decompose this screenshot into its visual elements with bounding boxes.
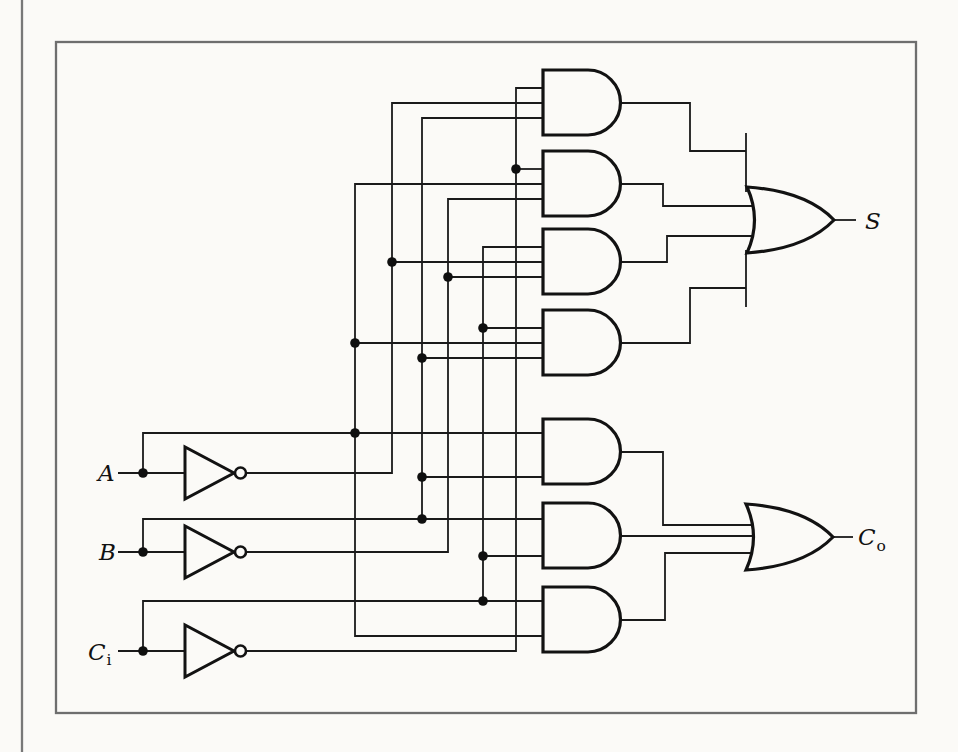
wire-ci-bus-to-and3 <box>483 247 543 601</box>
wire-a-bus-up-to-and2 <box>355 184 543 433</box>
junction-dot <box>478 323 488 333</box>
and-gate-4 <box>543 310 621 375</box>
label-carry-out-subscript: o <box>877 537 886 555</box>
label-carry-in-subscript: i <box>107 651 112 669</box>
and-gate-6 <box>543 503 621 568</box>
inverter-triangle <box>185 526 234 578</box>
inverter-bubble <box>235 468 246 479</box>
inverter-triangle <box>185 447 234 499</box>
wire-and3-to-orsum <box>620 236 754 262</box>
and-gate-5 <box>543 419 621 484</box>
label-carry-in-base: C <box>88 639 106 665</box>
wire-and5-to-orcarry <box>620 452 753 525</box>
wire-and2-to-orsum <box>620 184 754 206</box>
junction-dots <box>138 164 521 656</box>
label-carry-out-base: C <box>858 524 876 550</box>
junction-dot <box>511 164 521 174</box>
label-output-carry-out: Co <box>858 524 886 555</box>
junction-dot <box>417 353 427 363</box>
junction-dot <box>138 547 148 557</box>
junction-dot <box>350 428 360 438</box>
wire-bbar-bus-to-and2 <box>246 199 543 552</box>
inverter-b <box>185 526 246 578</box>
and-gate-7 <box>543 587 621 652</box>
junction-dot <box>387 257 397 267</box>
inverter-bubble <box>235 646 246 657</box>
junction-dot <box>478 551 488 561</box>
inverter-bubble <box>235 547 246 558</box>
junction-dot <box>138 468 148 478</box>
label-input-b: B <box>98 539 116 565</box>
and-gate-2 <box>543 151 621 216</box>
wire-abar-bus-to-and1 <box>246 103 543 473</box>
junction-dot <box>478 596 488 606</box>
junction-dot <box>417 472 427 482</box>
inverter-a <box>185 447 246 499</box>
wire-and4-to-orsum <box>620 288 746 343</box>
junction-dot <box>417 514 427 524</box>
wires <box>118 88 856 651</box>
wire-a-bus-down-to-and7 <box>355 433 543 636</box>
junction-dot <box>138 646 148 656</box>
label-input-a: A <box>96 460 115 486</box>
scanned-page: A B Ci S Co <box>0 0 958 752</box>
or-gate-carry <box>746 504 833 570</box>
wire-and1-to-orsum <box>620 103 746 151</box>
label-input-carry-in: Ci <box>88 639 112 669</box>
or-gate-sum <box>747 187 834 253</box>
inverter-carry-in <box>185 625 246 677</box>
and-gate-3 <box>543 229 621 294</box>
full-adder-schematic: A B Ci S Co <box>0 0 958 752</box>
junction-dot <box>443 272 453 282</box>
label-output-sum: S <box>865 208 881 234</box>
wire-and7-to-orcarry <box>620 553 753 620</box>
wire-cibar-bus-to-and1 <box>246 88 543 651</box>
figure-frame <box>56 42 916 713</box>
inverter-triangle <box>185 625 234 677</box>
and-gate-1 <box>543 70 621 135</box>
junction-dot <box>350 338 360 348</box>
